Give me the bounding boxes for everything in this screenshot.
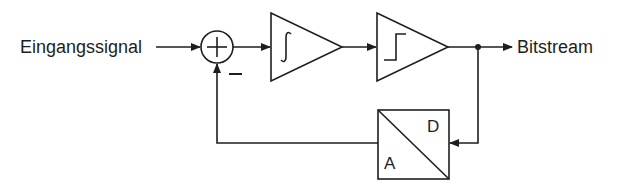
dac-label-a: A (384, 154, 396, 173)
step-icon (384, 34, 406, 60)
dac-label-d: D (427, 117, 439, 136)
feedback-line-right (450, 47, 478, 143)
feedback-line-left (217, 64, 378, 143)
integral-icon (281, 33, 291, 62)
output-label: Bitstream (517, 37, 593, 57)
integrator-block (271, 13, 342, 81)
comparator-block (377, 13, 448, 81)
dac-block: D A (378, 110, 449, 179)
sigma-delta-diagram: Eingangssignal Bitstream D A (0, 0, 619, 190)
input-label: Eingangssignal (20, 37, 142, 57)
summing-junction (201, 31, 233, 63)
